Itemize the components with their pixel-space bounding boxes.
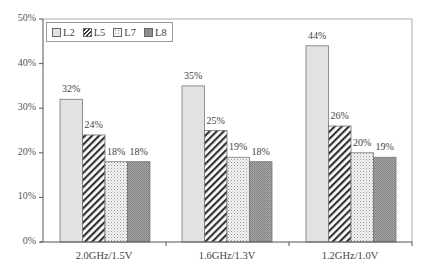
y-ticks [39, 19, 43, 242]
y-tick-label: 40% [0, 57, 36, 68]
value-label: 24% [79, 119, 109, 130]
x-tick-label: 1.6GHz/1.3V [167, 250, 287, 261]
value-label: 18% [246, 146, 276, 157]
legend-label-l7: L7 [124, 27, 136, 38]
legend-swatch-l8 [144, 28, 153, 37]
bar-l8-0 [128, 162, 151, 242]
y-tick-label: 50% [0, 12, 36, 23]
legend-label-l8: L8 [155, 27, 167, 38]
value-label: 19% [370, 141, 400, 152]
value-label: 26% [325, 110, 355, 121]
legend-swatch-l2 [52, 28, 61, 37]
value-label: 32% [56, 83, 86, 94]
legend: L2 L5 L7 L8 [46, 22, 173, 42]
x-ticks [166, 242, 412, 246]
bar-l7-0 [105, 162, 128, 242]
bar-l2-2 [306, 46, 329, 242]
value-label: 18% [124, 146, 154, 157]
x-tick-label: 2.0GHz/1.5V [44, 250, 164, 261]
bar-l2-1 [182, 86, 205, 242]
value-label: 35% [178, 70, 208, 81]
legend-item-l2: L2 [52, 27, 75, 38]
legend-item-l7: L7 [113, 27, 136, 38]
legend-label-l5: L5 [94, 27, 106, 38]
bar-l7-2 [351, 153, 374, 242]
legend-label-l2: L2 [63, 27, 75, 38]
y-tick-label: 30% [0, 101, 36, 112]
y-tick-label: 20% [0, 146, 36, 157]
legend-item-l8: L8 [144, 27, 167, 38]
legend-item-l5: L5 [83, 27, 106, 38]
legend-swatch-l7 [113, 28, 122, 37]
value-label: 44% [302, 30, 332, 41]
value-label: 25% [201, 115, 231, 126]
bar-l8-2 [374, 157, 397, 242]
x-tick-label: 1.2GHz/1.0V [290, 250, 410, 261]
legend-swatch-l5 [83, 28, 92, 37]
bar-l7-1 [227, 157, 250, 242]
y-tick-label: 10% [0, 190, 36, 201]
y-tick-label: 0% [0, 235, 36, 246]
bar-l8-1 [250, 162, 273, 242]
